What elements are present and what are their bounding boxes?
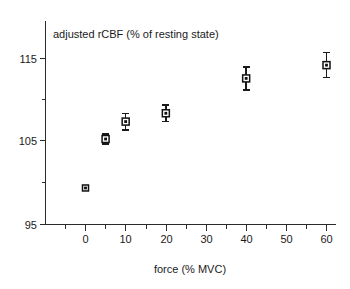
marker-center-0: [84, 187, 87, 190]
x-axis-minor-ticks: [66, 225, 307, 230]
x-tick-label-0: 0: [82, 233, 88, 245]
x-tick-label-60: 60: [320, 233, 332, 245]
data-points-layer: [83, 53, 331, 191]
data-point-5: [102, 134, 109, 144]
x-tick-label-40: 40: [240, 233, 252, 245]
x-tick-label-50: 50: [280, 233, 292, 245]
scatter-plot-canvas: 115 105 95 0 10 20: [0, 0, 350, 289]
axes-group: [46, 21, 337, 225]
data-point-10: [122, 113, 129, 130]
marker-center-40: [245, 77, 248, 80]
marker-center-5: [104, 138, 107, 141]
data-point-0: [83, 185, 89, 191]
y-tick-label-105: 105: [19, 135, 37, 147]
data-point-20: [162, 105, 169, 122]
data-point-40: [243, 67, 250, 90]
marker-center-10: [124, 120, 127, 123]
y-tick-label-115: 115: [19, 53, 37, 65]
marker-center-60: [325, 64, 328, 67]
x-tick-label-20: 20: [160, 233, 172, 245]
y-axis-major-ticks: [40, 59, 46, 225]
y-tick-label-95: 95: [25, 219, 37, 231]
x-axis-title: force (% MVC): [154, 263, 226, 275]
x-tick-label-10: 10: [119, 233, 131, 245]
x-tick-label-30: 30: [200, 233, 212, 245]
x-axis-tick-labels: 0 10 20 30 40 50 60: [82, 233, 332, 245]
chart-figure: 115 105 95 0 10 20: [0, 0, 350, 289]
data-point-60: [323, 53, 330, 78]
plot-title: adjusted rCBF (% of resting state): [53, 28, 219, 40]
marker-center-20: [164, 112, 167, 115]
x-axis-major-ticks: [86, 225, 327, 232]
y-axis-tick-labels: 115 105 95: [19, 53, 37, 231]
